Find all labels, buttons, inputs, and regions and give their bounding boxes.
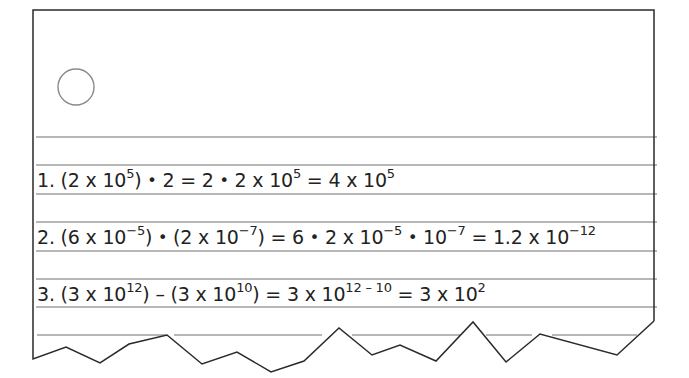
exponent: −5 — [383, 223, 402, 238]
equation-text: 2 x 10 — [229, 169, 293, 191]
problem-3: 3. (3 x 1012) – (3 x 1010) = 3 x 1012 – … — [37, 280, 486, 308]
exponent: −7 — [239, 223, 258, 238]
exponent: 12 — [126, 280, 142, 295]
problem-number: 2. — [37, 226, 61, 248]
multiply-dot-icon: • — [147, 167, 156, 195]
exponent: −5 — [126, 223, 145, 238]
multiply-dot-icon: • — [310, 224, 319, 252]
exponent: 5 — [387, 166, 395, 181]
equation-text: 2 x 10 — [319, 226, 383, 248]
problem-2: 2. (6 x 10−5) • (2 x 10−7) = 6 • 2 x 10−… — [37, 223, 596, 251]
equation-text: 10 — [417, 226, 447, 248]
multiply-dot-icon: • — [408, 224, 417, 252]
equation-text: = 4 x 10 — [301, 169, 387, 191]
multiply-dot-icon: • — [158, 224, 167, 252]
equation-text: (6 x 10 — [61, 226, 127, 248]
equation-text: ) — [134, 169, 147, 191]
equation-text: = 3 x 10 — [392, 283, 478, 305]
problem-number: 1. — [37, 169, 61, 191]
equation-text: (3 x 10 — [61, 283, 127, 305]
equation-text: 2 = 2 — [157, 169, 220, 191]
equation-text: ) — [145, 226, 158, 248]
equation-text: ) – (3 x 10 — [142, 283, 236, 305]
exponent: 2 — [478, 280, 486, 295]
problem-number: 3. — [37, 283, 61, 305]
equation-text: (2 x 10 — [167, 226, 238, 248]
exponent: 12 – 10 — [345, 280, 391, 295]
exponent: −12 — [569, 223, 596, 238]
equation-text: = 1.2 x 10 — [466, 226, 570, 248]
multiply-dot-icon: • — [219, 167, 228, 195]
problem-1: 1. (2 x 105) • 2 = 2 • 2 x 105 = 4 x 105 — [37, 166, 395, 194]
equation-text: ) = 6 — [257, 226, 309, 248]
exponent: −7 — [447, 223, 466, 238]
exponent: 5 — [293, 166, 301, 181]
exponent: 10 — [236, 280, 252, 295]
exponent: 5 — [126, 166, 134, 181]
equation-text: ) = 3 x 10 — [252, 283, 345, 305]
equation-text: (2 x 10 — [61, 169, 127, 191]
binder-hole-icon — [58, 69, 94, 105]
